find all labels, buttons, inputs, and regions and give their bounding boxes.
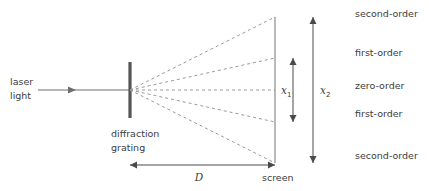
- diffraction-grating-diagram: laser light diffraction grating D screen…: [0, 0, 429, 191]
- grating-label-line2: grating: [111, 142, 145, 153]
- fringe-span-x1-dimension: [290, 58, 297, 122]
- x2-subscript: 2: [326, 91, 330, 99]
- order-label-second-order-lower: second-order: [355, 150, 418, 161]
- x1-label: x1: [281, 84, 291, 99]
- ray-second-order-upper: [130, 17, 275, 90]
- order-label-zero-order: zero-order: [355, 80, 405, 91]
- diagram-canvas: laser light diffraction grating D screen…: [0, 0, 429, 191]
- distance-arrowhead-left-icon: [130, 162, 137, 169]
- diffracted-rays-group: [130, 17, 275, 163]
- grating-label-line1: diffraction: [111, 128, 159, 139]
- ray-first-order-lower: [130, 90, 275, 122]
- laser-label-line2: light: [10, 90, 31, 101]
- distance-dimension-D: [130, 162, 275, 169]
- x1-arrowhead-bottom-icon: [290, 115, 297, 122]
- incoming-laser-beam: [38, 87, 130, 94]
- order-label-second-order-upper: second-order: [355, 8, 418, 19]
- order-label-first-order-lower: first-order: [355, 108, 403, 119]
- laser-beam-arrowhead-icon: [68, 87, 76, 94]
- screen-label: screen: [262, 172, 294, 183]
- x1-subscript: 1: [287, 91, 291, 99]
- ray-first-order-upper: [130, 58, 275, 90]
- ray-second-order-lower: [130, 90, 275, 163]
- x2-arrowhead-bottom-icon: [310, 156, 317, 163]
- x2-label: x2: [320, 84, 330, 99]
- laser-label-line1: laser: [10, 76, 33, 87]
- distance-label-D: D: [194, 171, 204, 183]
- x2-arrowhead-top-icon: [310, 17, 317, 24]
- order-label-first-order-upper: first-order: [355, 47, 403, 58]
- fringe-span-x2-dimension: [310, 17, 317, 163]
- distance-arrowhead-right-icon: [268, 162, 275, 169]
- x1-arrowhead-top-icon: [290, 58, 297, 65]
